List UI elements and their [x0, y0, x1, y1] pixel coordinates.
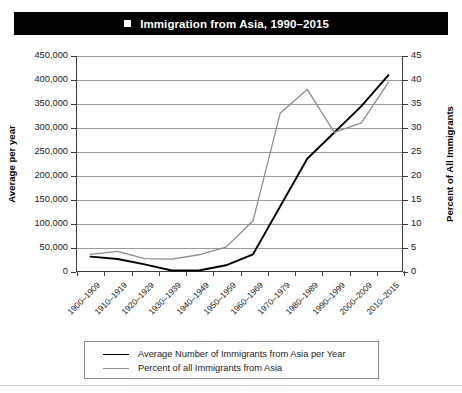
y-axis-right-tick: [403, 80, 408, 81]
legend-item[interactable]: Average Number of Immigrants from Asia p…: [103, 347, 378, 361]
x-axis-tick: [159, 271, 160, 276]
x-axis-tick: [132, 271, 133, 276]
y-axis-right-tick-label: 35: [411, 99, 421, 108]
y-axis-left-tick-label: 300,000: [34, 123, 68, 132]
y-axis-right-title: Percent of All Immigrants: [444, 106, 455, 222]
y-axis-right-tick-label: 25: [411, 147, 421, 156]
y-axis-left-tick: [71, 200, 76, 201]
y-axis-right-tick-label: 40: [411, 75, 421, 84]
y-axis-left-tick-label: 450,000: [34, 51, 68, 60]
y-axis-left-tick-label: 350,000: [34, 99, 68, 108]
x-axis-tick: [350, 271, 351, 276]
x-axis-tick: [377, 271, 378, 276]
y-axis-right-tick: [403, 200, 408, 201]
x-axis-tick: [77, 271, 78, 276]
legend-item-label: Percent of all Immigrants from Asia: [138, 363, 282, 373]
y-axis-right-tick: [403, 224, 408, 225]
y-axis-left-tick: [71, 80, 76, 81]
x-axis-tick: [213, 271, 214, 276]
x-axis-tick: [268, 271, 269, 276]
square-bullet-icon: [124, 20, 131, 27]
data-series-layer: [77, 56, 402, 271]
y-axis-left-tick: [71, 224, 76, 225]
x-axis-tick: [322, 271, 323, 276]
x-axis-tick: [186, 271, 187, 276]
y-axis-left-tick: [71, 248, 76, 249]
y-axis-left-tick: [71, 152, 76, 153]
y-axis-right-tick: [403, 248, 408, 249]
y-axis-right-tick: [403, 104, 408, 105]
legend-line-swatch: [103, 354, 129, 355]
y-axis-right-tick: [403, 128, 408, 129]
y-axis-left-tick-label: 100,000: [34, 219, 68, 228]
y-axis-left-tick-label: 0: [63, 267, 68, 276]
y-axis-right-tick: [403, 176, 408, 177]
figure-number: FIGURE 8.4: [24, 15, 111, 33]
legend-item[interactable]: Percent of all Immigrants from Asia: [103, 361, 378, 375]
legend-line-swatch: [103, 368, 129, 369]
y-axis-right-tick: [403, 152, 408, 153]
y-axis-right-tick-label: 0: [411, 267, 416, 276]
figure-page: FIGURE 8.4 Immigration from Asia, 1990–2…: [0, 0, 462, 393]
y-axis-right-tick-label: 30: [411, 123, 421, 132]
y-axis-left-tick: [71, 56, 76, 57]
y-axis-left-tick-label: 150,000: [34, 195, 68, 204]
page-title: Immigration from Asia, 1990–2015: [140, 18, 329, 30]
x-axis-tick: [241, 271, 242, 276]
plot-area: 050,000100,000150,000200,000250,000300,0…: [76, 56, 403, 272]
series-line: [91, 82, 389, 259]
y-axis-right-tick-label: 20: [411, 171, 421, 180]
y-axis-right-tick-label: 15: [411, 195, 421, 204]
y-axis-left-tick: [71, 176, 76, 177]
y-axis-left-tick-label: 50,000: [40, 243, 68, 252]
y-axis-left-tick: [71, 272, 76, 273]
y-axis-left-tick-label: 250,000: [34, 147, 68, 156]
page-divider: [0, 385, 462, 386]
chart-container: Average per year Percent of All Immigran…: [0, 38, 462, 393]
figure-title-bar: FIGURE 8.4 Immigration from Asia, 1990–2…: [14, 12, 448, 35]
x-axis-tick: [295, 271, 296, 276]
legend-item-label: Average Number of Immigrants from Asia p…: [138, 349, 346, 359]
x-axis-tick: [404, 271, 405, 276]
series-line: [91, 75, 389, 270]
chart-legend: Average Number of Immigrants from Asia p…: [84, 341, 379, 379]
x-axis-tick: [104, 271, 105, 276]
y-axis-left-tick-label: 400,000: [34, 75, 68, 84]
y-axis-left-tick-label: 200,000: [34, 171, 68, 180]
y-axis-left-title: Average per year: [6, 125, 17, 203]
y-axis-right-tick: [403, 56, 408, 57]
y-axis-left-tick: [71, 104, 76, 105]
y-axis-right-tick-label: 10: [411, 219, 421, 228]
y-axis-right-tick-label: 5: [411, 243, 416, 252]
y-axis-right-tick-label: 45: [411, 51, 421, 60]
y-axis-left-tick: [71, 128, 76, 129]
